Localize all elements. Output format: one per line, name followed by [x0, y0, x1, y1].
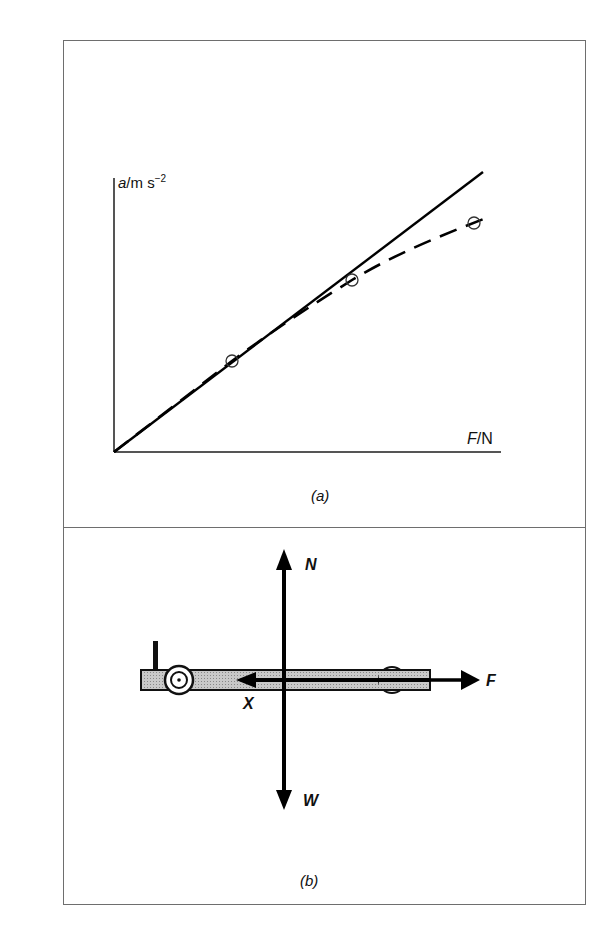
y-axis-label: a/m s−2 [118, 173, 166, 191]
y-axis-unit: /m s [126, 174, 154, 191]
dashed-curve-series [114, 218, 486, 452]
force-label-x: X [243, 695, 254, 713]
x-axis-unit: /N [477, 430, 493, 447]
force-label-w: W [303, 792, 318, 810]
panel-b-force-diagram [63, 527, 586, 905]
y-axis-exponent: −2 [155, 173, 166, 184]
caption-a: (a) [311, 487, 329, 504]
x-axis-symbol: F [467, 430, 477, 447]
data-point-markers [226, 217, 480, 367]
x-axis-label: F/N [467, 430, 493, 448]
graph-axes [114, 178, 501, 452]
force-label-n: N [305, 556, 317, 574]
caption-b: (b) [300, 872, 318, 889]
force-label-f: F [486, 672, 496, 690]
